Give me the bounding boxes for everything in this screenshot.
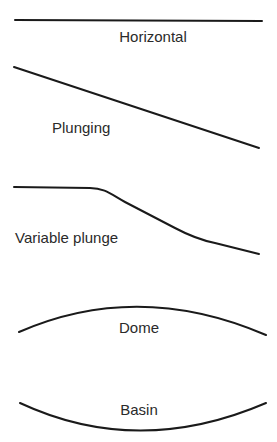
fold-axis-diagram: Horizontal Plunging Variable plunge Dome… <box>0 0 277 442</box>
panel-dome: Dome <box>19 307 266 336</box>
variable-plunge-label: Variable plunge <box>15 229 118 246</box>
horizontal-label: Horizontal <box>119 28 187 45</box>
plunging-label: Plunging <box>52 119 110 136</box>
panel-plunging: Plunging <box>14 67 259 148</box>
panel-horizontal: Horizontal <box>15 20 262 45</box>
plunging-line <box>14 67 259 148</box>
basin-label: Basin <box>120 401 158 418</box>
panel-basin: Basin <box>20 401 266 431</box>
panel-variable-plunge: Variable plunge <box>14 187 259 254</box>
horizontal-line <box>15 20 262 21</box>
dome-label: Dome <box>119 319 159 336</box>
